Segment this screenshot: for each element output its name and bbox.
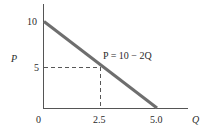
x-axis-label: Q xyxy=(192,114,200,125)
x-tick-5-0: 5.0 xyxy=(150,114,163,125)
y-tick-5: 5 xyxy=(34,62,39,73)
y-axis-label: P xyxy=(10,53,17,64)
demand-chart: 10 5 P 0 2.5 5.0 Q P = 10 − 2Q xyxy=(0,0,210,129)
origin-label: 0 xyxy=(36,114,41,125)
curve-label: P = 10 − 2Q xyxy=(103,50,152,61)
x-tick-2-5: 2.5 xyxy=(93,114,106,125)
y-tick-10: 10 xyxy=(27,16,37,27)
